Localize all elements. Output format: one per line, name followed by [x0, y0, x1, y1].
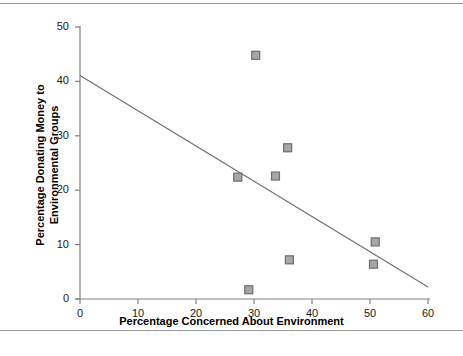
- data-point-marker[interactable]: [245, 286, 253, 294]
- data-point[interactable]: [284, 144, 292, 152]
- data-point[interactable]: [252, 51, 260, 59]
- data-point-marker[interactable]: [371, 238, 379, 246]
- data-point[interactable]: [369, 260, 377, 268]
- y-axis-title-line2: Environmental Groups: [47, 40, 61, 290]
- data-point[interactable]: [245, 286, 253, 294]
- y-axis-title: Percentage Donating Money to Environment…: [33, 40, 61, 290]
- data-point[interactable]: [285, 256, 293, 264]
- y-axis-tick-label: 50: [47, 21, 69, 32]
- scatter-plot-canvas: [0, 0, 463, 356]
- data-point-marker[interactable]: [271, 172, 279, 180]
- data-point-marker[interactable]: [234, 173, 242, 181]
- data-point[interactable]: [234, 173, 242, 181]
- data-point[interactable]: [271, 172, 279, 180]
- chart-page: 01020304050 0102030405060 Percentage Con…: [0, 0, 463, 356]
- data-point-marker[interactable]: [252, 51, 260, 59]
- y-axis-tick-label: 0: [47, 293, 69, 304]
- y-axis-title-line1: Percentage Donating Money to: [34, 84, 46, 245]
- data-point-marker[interactable]: [369, 260, 377, 268]
- data-point-marker[interactable]: [284, 144, 292, 152]
- trendline-group: [80, 75, 428, 287]
- data-point-marker[interactable]: [285, 256, 293, 264]
- data-points-group: [234, 51, 379, 293]
- x-axis-title: Percentage Concerned About Environment: [0, 315, 463, 327]
- data-point[interactable]: [371, 238, 379, 246]
- trendline: [80, 75, 428, 287]
